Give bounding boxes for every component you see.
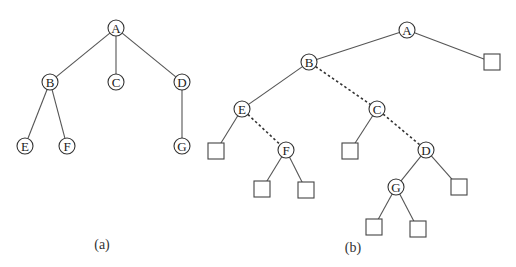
null-leaf-nD [451,179,467,195]
node-E: E [234,101,250,117]
edge-B-F [52,90,65,139]
node-label: G [391,180,400,195]
node-label: G [177,139,186,154]
null-leaf-nF2 [298,182,314,198]
node-label: B [46,75,55,90]
null-leaf-nG2 [410,221,426,237]
edge-B-E [28,89,47,138]
caption-b: (b) [345,240,362,256]
node-D: D [174,74,190,90]
node-label: D [421,143,430,158]
edge-D-G [401,156,421,181]
node-label: F [63,139,70,154]
node-G: G [174,138,190,154]
edge-A-B [317,32,400,59]
node-label: A [111,21,121,36]
null-leaf-nF1 [254,181,270,197]
node-label: C [112,75,121,90]
edge-B-C [316,67,371,105]
node-label: F [282,143,289,158]
node-label: A [402,23,412,38]
node-C: C [369,101,385,117]
figure-a-general-tree: ABCDEFG [17,20,190,154]
edge-D-nD [431,156,453,181]
edge-B-E [249,67,303,105]
node-A: A [108,20,124,36]
node-B: B [301,54,317,70]
node-D: D [418,142,434,158]
edge-C-D [383,114,420,145]
node-G: G [388,179,404,195]
edge-G-nG1 [378,194,392,220]
null-leaf-nE [208,143,224,159]
edge-C-nC [354,116,372,145]
figure-b-binary-tree: ABECFDG [208,22,500,237]
edge-G-nG2 [400,194,415,222]
node-F: F [278,142,294,158]
node-F: F [59,138,75,154]
null-leaf-nC [342,143,358,159]
edge-A-nA [414,33,484,59]
node-B: B [42,74,58,90]
node-label: E [238,102,246,117]
edge-E-F [248,114,280,144]
node-C: C [108,74,124,90]
tree-diagram: ABCDEFG ABECFDG (a) (b) [0,0,516,267]
edge-A-D [122,33,176,77]
edge-A-B [56,33,110,77]
node-label: E [21,139,29,154]
edge-F-nF2 [290,157,303,183]
node-label: B [305,55,314,70]
caption-a: (a) [94,237,110,253]
node-E: E [17,138,33,154]
null-leaf-nA [484,54,500,70]
edge-F-nF1 [266,157,282,182]
edge-E-nE [220,116,238,144]
node-A: A [399,22,415,38]
null-leaf-nG1 [366,219,382,235]
node-label: C [373,102,382,117]
node-label: D [177,75,186,90]
